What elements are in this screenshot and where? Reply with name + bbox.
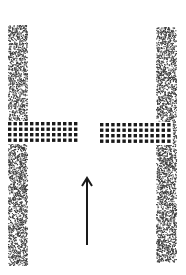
left-barrier <box>7 121 80 144</box>
left-wall <box>8 25 28 266</box>
barriers <box>7 121 173 145</box>
diagram-canvas <box>0 0 186 275</box>
walls <box>8 25 177 266</box>
up-arrow-icon <box>82 178 92 245</box>
right-barrier <box>99 122 173 145</box>
